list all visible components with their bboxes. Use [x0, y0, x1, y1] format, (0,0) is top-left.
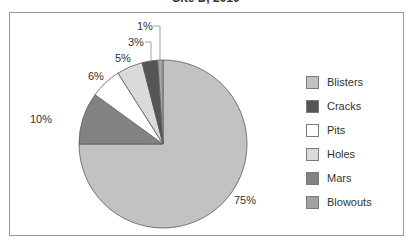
swatch-mars	[306, 172, 319, 185]
label-pits: 6%	[88, 70, 104, 82]
legend-label: Blowouts	[327, 196, 372, 209]
legend-item-mars: Mars	[306, 172, 372, 196]
pie-slices	[79, 60, 247, 228]
swatch-blowouts	[306, 196, 319, 209]
swatch-blisters	[306, 76, 319, 89]
leader-line-blowouts	[153, 26, 160, 61]
label-cracks: 3%	[128, 36, 144, 48]
legend-item-cracks: Cracks	[306, 100, 372, 124]
label-blowouts: 1%	[137, 20, 153, 32]
legend-label: Pits	[327, 124, 345, 137]
legend-label: Cracks	[327, 100, 361, 113]
swatch-cracks	[306, 100, 319, 113]
legend-item-holes: Holes	[306, 148, 372, 172]
label-holes: 5%	[115, 52, 131, 64]
legend-label: Blisters	[327, 76, 363, 89]
legend-label: Mars	[327, 172, 351, 185]
legend-item-blowouts: Blowouts	[306, 196, 372, 220]
legend-item-blisters: Blisters	[306, 76, 372, 100]
swatch-pits	[306, 124, 319, 137]
legend-item-pits: Pits	[306, 124, 372, 148]
leader-line-cracks	[145, 42, 151, 62]
label-mars: 10%	[30, 113, 52, 125]
legend: Blisters Cracks Pits Holes Mars Blowouts	[306, 76, 372, 220]
swatch-holes	[306, 148, 319, 161]
legend-label: Holes	[327, 148, 355, 161]
label-blisters: 75%	[234, 194, 256, 206]
